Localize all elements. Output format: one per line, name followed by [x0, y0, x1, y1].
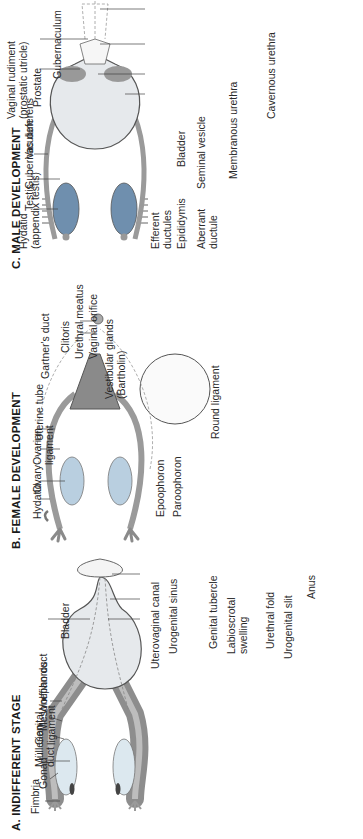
label-round-ligament: Round ligament — [210, 365, 222, 439]
panel-female-development: B. FEMALE DEVELOPMENT — [0, 279, 363, 559]
label-epididymis: Epididymis — [176, 198, 188, 249]
label-urethral-meatus: Urethral meatus — [74, 284, 86, 359]
label-epoophoron: Epoophoron — [155, 460, 167, 517]
label-aberrant-ductule: Aberrant ductule — [196, 209, 219, 249]
label-clitoris: Clitoris — [60, 321, 72, 353]
bladder-shape — [140, 354, 210, 424]
label-vaginal-orifice: Vaginal orifice — [88, 294, 100, 359]
bladder-shape — [63, 577, 141, 689]
label-vestibular-glands: Vestibular glands (Bartholin) — [104, 319, 127, 399]
label-efferent-ductules: Efferent ductules — [150, 210, 173, 249]
female-development-drawing — [0, 279, 363, 559]
prostate-shape — [80, 39, 110, 64]
label-bladder: Bladder — [60, 603, 72, 639]
label-anus: Anus — [306, 575, 318, 599]
label-cavernous-urethra: Cavernous urethra — [266, 32, 278, 119]
anatomy-figure: A. INDIFFERENT STAGE — [0, 0, 363, 839]
label-labioscrotal-swelling: Labioscrotal swelling — [226, 597, 249, 654]
testis-right — [111, 183, 137, 235]
label-urethral-fold: Urethral fold — [265, 592, 277, 649]
label-uterine-tube: Uterine tube — [34, 384, 46, 441]
label-urogenital-sinus: Urogenital sinus — [168, 579, 180, 654]
indifferent-stage-drawing — [0, 559, 363, 839]
label-membranous-urethra: Membranous urethra — [228, 82, 240, 179]
label-gubernaculum-lower: Gubernaculum — [52, 10, 64, 79]
label-wolffian-duct: Wolffian duct — [38, 654, 50, 714]
label-urogenital-slit: Urogenital slit — [283, 595, 295, 659]
label-uterovaginal-canal: Uterovaginal canal — [150, 582, 162, 669]
label-vaginal-rudiment: Vaginal rudiment (prostatic utricle) — [6, 41, 29, 119]
label-genital-tubercle: Genital tubercle — [208, 575, 220, 649]
panel-male-development: C. MALE DEVELOPMENT — [0, 0, 363, 279]
label-bladder: Bladder — [176, 131, 188, 167]
panel-indifferent-stage: A. INDIFFERENT STAGE — [0, 559, 363, 839]
label-seminal-vesicle: Seminal vesicle — [196, 116, 208, 189]
label-paroophoron: Paroophoron — [172, 456, 184, 517]
label-ovary: Ovary — [32, 465, 44, 493]
label-gartners-duct: Gartner's duct — [40, 313, 52, 379]
label-prostate: Prostate — [32, 68, 44, 107]
ovary-right — [108, 457, 132, 505]
